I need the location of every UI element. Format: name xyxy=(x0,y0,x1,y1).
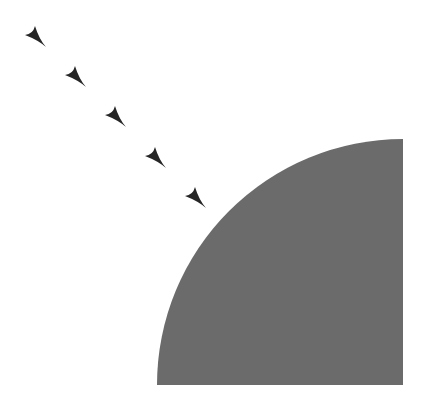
arrowhead-icon xyxy=(185,187,206,208)
arrowhead-icon xyxy=(65,66,86,87)
quarter-disc-shape xyxy=(157,139,403,385)
diagram-svg xyxy=(0,0,425,404)
arrowhead-icon xyxy=(145,147,166,168)
diagram-canvas xyxy=(0,0,425,404)
arrowhead-icon xyxy=(105,106,126,127)
arrow-group xyxy=(25,26,206,208)
arrowhead-icon xyxy=(25,26,46,47)
